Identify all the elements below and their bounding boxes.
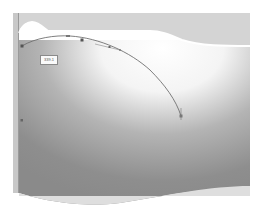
anchor-point[interactable] [81, 39, 84, 42]
anchor-point[interactable] [109, 46, 111, 48]
drawing-canvas[interactable] [0, 0, 268, 223]
anchor-point[interactable] [180, 115, 183, 118]
anchor-point[interactable] [66, 35, 70, 37]
anchor-point[interactable] [21, 119, 24, 122]
anchor-point[interactable] [21, 45, 24, 48]
dimension-label: 339.1 [40, 55, 58, 65]
